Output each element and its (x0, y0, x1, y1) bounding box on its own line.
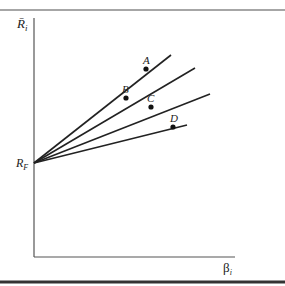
line-c: C (34, 92, 210, 163)
label-b: B (122, 83, 129, 95)
point-c (148, 104, 153, 109)
label-a: A (142, 54, 150, 66)
rf-label: RF (15, 156, 28, 172)
y-axis-label: R̄i (16, 16, 28, 33)
point-a (143, 66, 148, 71)
x-axis-label: βi (223, 260, 232, 277)
line-d: D (34, 112, 187, 163)
diagram-frame: R̄i βi RF A B C D (0, 0, 285, 286)
sml-diagram: R̄i βi RF A B C D (0, 0, 285, 286)
label-c: C (147, 92, 155, 104)
point-d (170, 124, 175, 129)
point-b (123, 95, 128, 100)
label-d: D (169, 112, 178, 124)
